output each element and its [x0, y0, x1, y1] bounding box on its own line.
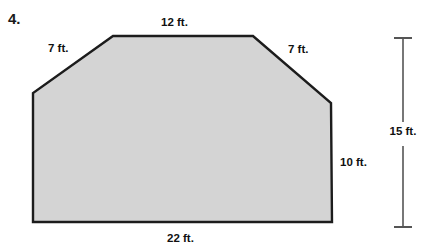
dimension-label-overall-height: 15 ft.: [389, 126, 418, 138]
problem-number: 4.: [8, 10, 21, 27]
shape-drawing: [0, 0, 430, 252]
hexagon-shape: [33, 36, 332, 222]
dimension-label-bottom: 22 ft.: [167, 233, 194, 245]
dimension-label-top: 12 ft.: [161, 17, 188, 29]
dimension-label-left-slant: 7 ft.: [48, 43, 68, 55]
dimension-label-right-slant: 7 ft.: [288, 44, 308, 56]
dimension-label-right-side: 10 ft.: [340, 157, 367, 169]
geometry-figure: 4. 12 ft. 7 ft. 7 ft. 10 ft. 22 ft. 15 f…: [0, 0, 430, 252]
